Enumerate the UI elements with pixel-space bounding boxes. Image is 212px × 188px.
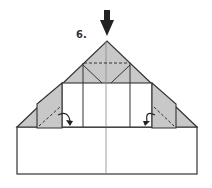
base-rectangle <box>17 127 197 174</box>
left-gray-flap <box>37 83 62 128</box>
white-center-panel <box>62 83 152 127</box>
push-down-arrow-icon <box>100 10 114 36</box>
origami-figure <box>0 0 212 188</box>
right-gray-flap <box>152 83 176 128</box>
